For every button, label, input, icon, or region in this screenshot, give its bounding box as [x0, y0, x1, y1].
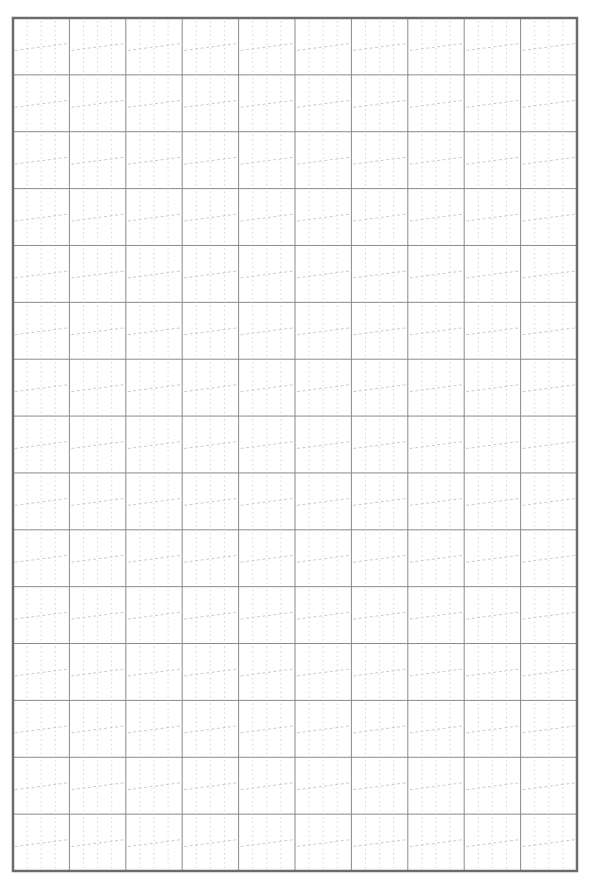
- practice-sheet: [0, 0, 591, 880]
- writing-grid: [0, 0, 591, 880]
